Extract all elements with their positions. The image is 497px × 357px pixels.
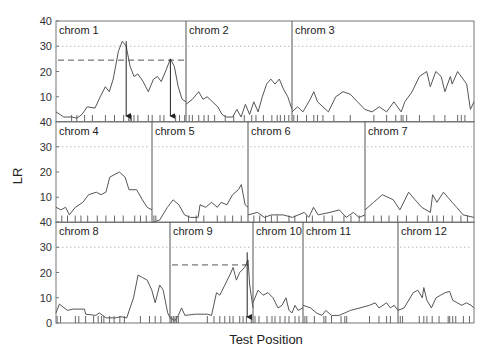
lr-curve	[56, 172, 152, 215]
chromosome-label: chrom 10	[256, 225, 302, 237]
chart-row: chrom 1chrom 2chrom 3	[56, 21, 474, 122]
chromosome-label: chrom 8	[59, 225, 99, 237]
y-axis-title: LR	[10, 168, 25, 185]
y-tick-label: 30	[40, 241, 52, 253]
lr-curve	[253, 290, 303, 313]
chromosome-label: chrom 11	[306, 225, 351, 237]
lr-curve	[56, 275, 170, 318]
lr-curve	[170, 260, 253, 321]
chromosome-label: chrom 1	[59, 24, 99, 36]
y-tick-label: 30	[40, 40, 52, 52]
chromosome-panel: chrom 11	[303, 222, 398, 323]
chromosome-label: chrom 6	[251, 125, 291, 137]
chromosome-label: chrom 2	[189, 24, 229, 36]
linkage-chart: chrom 1chrom 2chrom 3chrom 4chrom 5chrom…	[0, 0, 497, 357]
lr-curve	[303, 303, 398, 316]
y-tick-label: 20	[40, 267, 52, 279]
chromosome-panel: chrom 3	[292, 21, 474, 122]
lr-curve	[398, 288, 474, 311]
y-tick-label: 0	[46, 317, 52, 329]
y-tick-label: 10	[40, 191, 52, 203]
y-tick-label: 30	[40, 141, 52, 153]
chromosome-label: chrom 9	[173, 225, 213, 237]
chromosome-panel: chrom 4	[56, 125, 152, 223]
lr-curve	[292, 72, 474, 112]
chromosome-label: chrom 4	[59, 125, 99, 137]
chromosome-panel: chrom 2	[186, 21, 292, 122]
chart-panels: chrom 1chrom 2chrom 3chrom 4chrom 5chrom…	[56, 21, 474, 323]
chromosome-panel: chrom 5	[152, 122, 248, 223]
chromosome-panel: chrom 7	[365, 122, 474, 223]
chromosome-panel: chrom 6	[248, 122, 365, 223]
chromosome-panel: chrom 10	[253, 222, 303, 323]
y-tick-label: 40	[40, 216, 52, 228]
y-tick-label: 20	[40, 166, 52, 178]
chart-row: chrom 4chrom 5chrom 6chrom 7	[56, 122, 474, 223]
lr-curve	[365, 192, 474, 217]
y-tick-label: 10	[40, 91, 52, 103]
y-tick-label: 40	[40, 116, 52, 128]
chromosome-panel: chrom 12	[398, 222, 474, 323]
chromosome-panel: chrom 8	[56, 225, 170, 323]
y-tick-label: 10	[40, 292, 52, 304]
x-axis-title: Test Position	[229, 332, 303, 347]
chromosome-label: chrom 7	[368, 125, 408, 137]
chromosome-label: chrom 12	[401, 225, 447, 237]
chromosome-panel: chrom 1	[56, 24, 186, 122]
chromosome-label: chrom 3	[295, 24, 335, 36]
lr-curve	[56, 41, 186, 118]
chart-row: chrom 8chrom 9chrom 10chrom 11chrom 12	[56, 222, 474, 323]
chromosome-panel: chrom 9	[170, 222, 253, 323]
lr-curve	[152, 185, 248, 223]
y-tick-label: 40	[40, 15, 52, 27]
chromosome-label: chrom 5	[155, 125, 195, 137]
lr-curve	[186, 79, 292, 117]
y-tick-label: 20	[40, 66, 52, 78]
